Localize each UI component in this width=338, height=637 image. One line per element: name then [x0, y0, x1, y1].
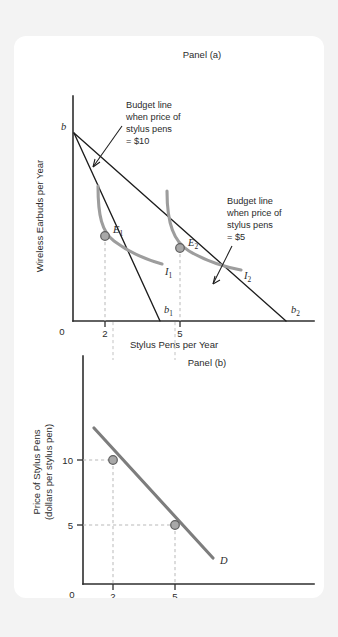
panel-b-ytick-10-label: 10 [62, 455, 73, 466]
budget-end-label-b2: b2 [291, 304, 300, 318]
annotation-5-line-3: stylus pens [227, 220, 273, 230]
panel-a-xtick-2-label: 2 [102, 328, 107, 339]
annotation-5-line-1: Budget line [227, 196, 273, 206]
annotation-budget-line-10: Budget line when price of stylus pens = … [93, 100, 181, 167]
demand-curve [94, 428, 213, 558]
panel-a-y-axis-label: Wireless Earbuds per Year [34, 160, 45, 272]
demand-point-price-10 [109, 456, 118, 465]
annotation-10-line-2: when price of [125, 112, 181, 122]
economics-figure: Panel (a) Wireless Earbuds per Year Styl… [14, 36, 324, 598]
annotation-10-line-4: = $10 [126, 136, 149, 146]
equilibrium-label-e2: E2 [187, 237, 198, 251]
indifference-curve-1 [98, 186, 162, 264]
panel-b-xtick-2-label: 2 [110, 591, 115, 598]
annotation-5-line-4: = $5 [227, 232, 245, 242]
panel-a-xtick-5-label: 5 [177, 328, 182, 339]
panel-b-title: Panel (b) [188, 357, 227, 368]
panel-a-title: Panel (a) [183, 49, 222, 60]
annotation-10-line-3: stylus pens [126, 124, 172, 134]
indifference-label-i1: I1 [164, 266, 173, 280]
annotation-10-leader [93, 126, 122, 167]
annotation-10-arrowhead [93, 159, 100, 167]
budget-end-label-b1: b1 [164, 304, 173, 318]
indifference-label-i2: I2 [243, 270, 252, 284]
budget-intercept-label-b: b [61, 121, 66, 132]
annotation-5-line-2: when price of [226, 208, 282, 218]
demand-curve-label: D [219, 555, 228, 566]
annotation-budget-line-5: Budget line when price of stylus pens = … [213, 196, 282, 284]
panel-a-origin-label: 0 [59, 326, 64, 337]
annotation-10-line-1: Budget line [126, 100, 172, 110]
equilibrium-point-e1 [101, 232, 110, 241]
equilibrium-label-e1: E1 [112, 224, 123, 238]
panel-b-ytick-5-label: 5 [68, 520, 73, 531]
panel-b-origin-label: 0 [69, 589, 74, 598]
panel-b-xtick-5-label: 5 [172, 591, 177, 598]
panel-b-y-axis-label-line1: Price of Stylus Pens [31, 429, 42, 514]
panel-a: Panel (a) Wireless Earbuds per Year Styl… [34, 49, 314, 350]
panel-a-x-axis-label: Stylus Pens per Year [130, 339, 218, 350]
panel-b-y-axis-label-line2: (dollars per stylus pen) [43, 424, 54, 520]
equilibrium-point-e2 [176, 244, 185, 253]
panel-b: Panel (b) Price of Stylus Pens (dollars … [31, 356, 314, 598]
demand-point-price-5 [171, 521, 180, 530]
figure-card: Panel (a) Wireless Earbuds per Year Styl… [14, 36, 324, 598]
